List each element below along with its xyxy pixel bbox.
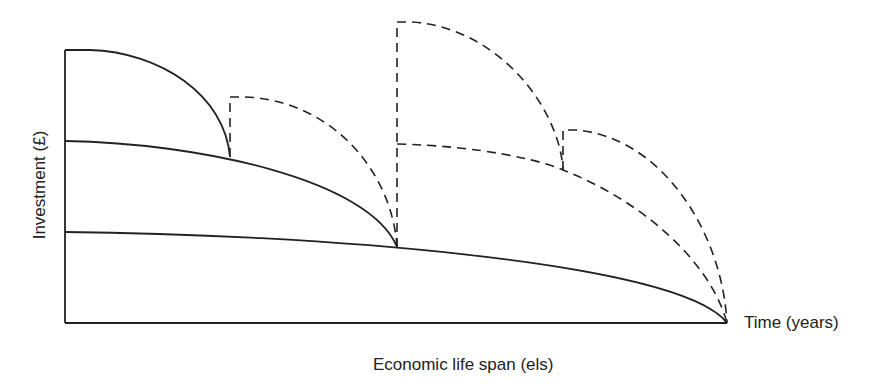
dashed-reinvest-1c xyxy=(563,130,727,323)
dashed-reinvest-1a xyxy=(230,97,397,247)
y-axis-label: Investment (£) xyxy=(30,131,50,240)
curve-medium-life xyxy=(65,141,397,247)
caption-label: Economic life span (els) xyxy=(373,355,553,375)
dashed-reinvest-2 xyxy=(397,144,727,323)
dashed-reinvest-1b xyxy=(397,22,563,247)
x-axis-label: Time (years) xyxy=(744,313,839,333)
